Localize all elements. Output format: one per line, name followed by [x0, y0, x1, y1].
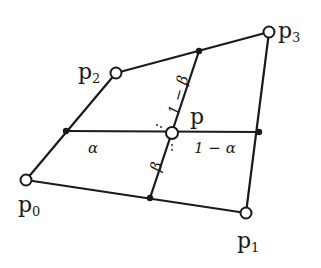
corner-point-p0: [21, 175, 32, 186]
edge-point-right: [256, 129, 262, 135]
label-p0: p0: [18, 192, 40, 219]
label-p: p: [190, 104, 204, 129]
label-one-minus-alpha: 1 − α: [194, 139, 236, 157]
edge-point-top: [196, 48, 202, 54]
edge-point-left: [63, 128, 69, 134]
alpha-isoline: [66, 131, 259, 132]
edge-p1-p3: [246, 32, 269, 213]
edge-p2-p0: [26, 73, 116, 180]
label-p3: p3: [278, 18, 300, 45]
corner-point-p1: [241, 208, 252, 219]
corner-point-p3: [264, 27, 275, 38]
label-one-minus-beta: 1 − β: [164, 73, 192, 117]
edge-p3-p2: [116, 32, 269, 73]
dot-hint: [171, 149, 173, 151]
bilinear-patch-diagram: p0 p1 p2 p3 p α 1 − α β 1 − β: [0, 0, 321, 268]
interior-point-p: [166, 127, 178, 139]
dot-hint: [171, 144, 173, 146]
label-alpha: α: [88, 139, 98, 157]
label-p2: p2: [78, 59, 100, 86]
label-p1: p1: [237, 228, 259, 255]
edge-p0-p1: [26, 180, 246, 213]
dot-hint: [156, 124, 158, 126]
dot-hint: [160, 126, 162, 128]
corner-point-p2: [111, 68, 122, 79]
edge-point-bottom: [147, 195, 153, 201]
